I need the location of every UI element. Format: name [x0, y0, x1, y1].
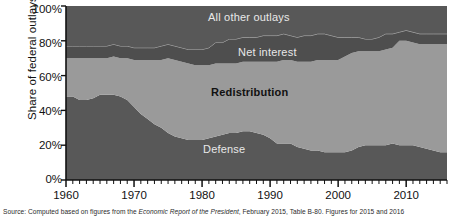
x-tick-label-2010: 2010 — [384, 190, 428, 202]
chart-figure: Share of federal outlays 100% 80% 60% 40… — [0, 0, 464, 219]
band-label-defense: Defense — [203, 143, 245, 155]
band-label-redistribution: Redistribution — [211, 86, 288, 98]
source-note: Source: Computed based on figures from t… — [3, 208, 404, 215]
chart-plot-area — [0, 0, 464, 219]
x-tick-label-1990: 1990 — [248, 190, 292, 202]
x-tick-label-1970: 1970 — [112, 190, 156, 202]
x-tick-label-1960: 1960 — [44, 190, 88, 202]
source-prefix: Source: Computed based on figures from t… — [3, 208, 139, 215]
source-suffix: , February 2015, Table B-80. Figures for… — [239, 208, 404, 215]
x-tick-label-1980: 1980 — [180, 190, 224, 202]
source-italic-title: Economic Report of the President — [139, 208, 239, 215]
band-label-net-interest: Net interest — [238, 46, 297, 58]
band-label-all-other-outlays: All other outlays — [208, 11, 290, 23]
x-tick-label-2000: 2000 — [316, 190, 360, 202]
